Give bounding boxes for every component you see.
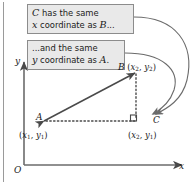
callout-2-period: . <box>107 55 110 65</box>
label-coords-a: (x1, y1) <box>19 130 48 140</box>
point-a-paren-close: ) <box>44 130 47 140</box>
callout-1-line-1: C has the same <box>32 7 130 19</box>
callout-1-line-2: x coordinate as B... <box>32 19 130 31</box>
geometry-figure: C has the same x coordinate as B... ...a… <box>0 0 195 184</box>
callout-box-c-y-coordinate: ...and the same y coordinate as A. <box>27 40 125 70</box>
callout-1-line-1-text: has the same <box>39 8 98 18</box>
label-point-c: C <box>153 115 160 125</box>
point-b-coords: (x2, y2) <box>125 62 156 72</box>
callout-2-var-a: A <box>100 54 107 65</box>
label-coords-c: (x2, y1) <box>128 130 157 140</box>
callout-1-ellipsis: ... <box>107 20 115 30</box>
y-axis-label: y <box>15 56 20 66</box>
point-c-paren-close: ) <box>153 130 156 140</box>
label-point-b: B (x2, y2) <box>118 62 156 72</box>
callout-box-c-x-coordinate: C has the same x coordinate as B... <box>27 4 134 34</box>
callout-2-line-2-text: coordinate as <box>37 55 99 65</box>
segment-ab <box>44 73 135 121</box>
point-b-paren-close: ) <box>153 62 156 72</box>
point-b-name: B <box>118 62 125 72</box>
callout-2-line-2: y coordinate as A. <box>32 54 121 66</box>
callout-1-line-2-text: coordinate as <box>37 20 99 30</box>
callout-1-var-b: B <box>100 19 107 30</box>
origin-label: O <box>14 165 21 175</box>
x-axis-label: x <box>179 161 184 171</box>
callout-2-line-1: ...and the same <box>32 43 121 54</box>
label-point-a: A <box>36 112 43 122</box>
